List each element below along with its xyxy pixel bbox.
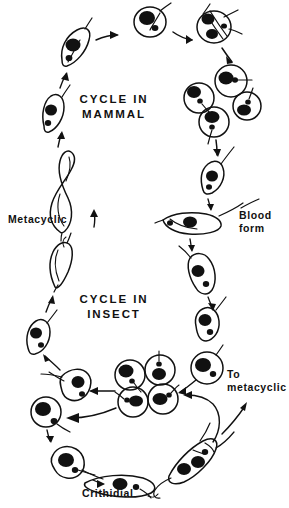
blood-form-trypanosome <box>155 203 243 234</box>
arrow-cluster-to-round-left <box>66 408 116 423</box>
arrow-cluster-to-trypo <box>213 140 221 157</box>
to-metacyclic-label: To metacyclic <box>227 368 287 395</box>
arrow-topleft-to-top <box>96 31 119 40</box>
diagram-artwork <box>0 0 289 508</box>
arrow-promastigote-up <box>43 354 60 370</box>
dividing-amastigote <box>197 4 242 43</box>
trypanosome-right-mid <box>179 246 215 294</box>
arrow-to-metacyclic-label <box>222 402 247 434</box>
arrow-to-cluster <box>222 48 233 64</box>
amastigote-right-insect <box>191 345 223 384</box>
cycle-in-mammal-title: CYCLE IN MAMMAL <box>66 92 162 121</box>
cycle-in-insect-title: CYCLE IN INSECT <box>66 292 162 321</box>
amastigote-cluster-mammal <box>184 65 261 144</box>
leader-blood-form <box>241 199 259 208</box>
promastigote-left-lower <box>41 369 91 400</box>
promastigote-bottom-left <box>51 447 103 479</box>
amastigote-top <box>134 3 171 37</box>
blood-form-label: Blood form <box>239 209 272 236</box>
arrow-cluster-to-left <box>89 387 115 395</box>
arrow-to-blood-form <box>207 199 214 211</box>
arrow-left-lower-up <box>46 295 55 312</box>
trypanosome-top-left <box>62 18 92 66</box>
arrow-metacyclic-label <box>90 209 98 227</box>
arrow-round-to-promastigote <box>46 430 54 443</box>
arrow-metacyclic-up <box>57 131 65 147</box>
amastigote-cluster-insect <box>115 351 179 417</box>
arrow-into-insect-cluster <box>178 380 196 395</box>
metacyclic-label: Metacyclic <box>8 213 67 226</box>
life-cycle-diagram: CYCLE IN MAMMAL CYCLE IN INSECT Metacycl… <box>0 0 289 508</box>
trypanosome-left-lower <box>27 310 57 354</box>
round-body-lower-left <box>31 397 70 432</box>
arrow-blood-to-stumpy <box>188 239 195 252</box>
arrow-crithidial-to-cluster <box>183 391 219 442</box>
arrow-top-right <box>173 32 193 44</box>
metacyclic-left-wavy <box>50 151 74 241</box>
crithidial-label: Crithidial <box>82 487 134 500</box>
arrow-left-upper-up <box>60 72 69 88</box>
metacyclic-left-lower <box>50 233 72 292</box>
